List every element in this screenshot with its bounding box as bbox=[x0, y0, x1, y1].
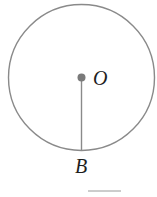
diagram-canvas: O B bbox=[0, 0, 157, 197]
label-o: O bbox=[93, 67, 107, 89]
center-point bbox=[78, 74, 86, 82]
label-b: B bbox=[75, 155, 87, 177]
